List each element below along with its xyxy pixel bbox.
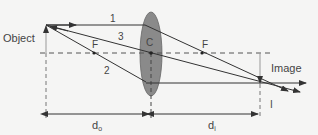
object-distance-label: do: [92, 119, 102, 132]
focal-point-right: [200, 51, 203, 54]
ray-3-label: 3: [118, 31, 124, 42]
ray-3-arrow: [56, 28, 68, 31]
focus-left-label: F: [92, 39, 98, 50]
image-distance-label: di: [208, 119, 216, 132]
lens-center-point: [149, 51, 153, 55]
thin-lens-ray-diagram: Object Image 1 3 2 C F F I do di: [0, 0, 318, 135]
focal-point-left: [92, 51, 95, 54]
ray-3: [46, 25, 300, 92]
object-label: Object: [3, 32, 35, 44]
image-marker-label: I: [270, 99, 273, 110]
focus-right-label: F: [202, 39, 208, 50]
center-label: C: [146, 37, 153, 48]
image-label: Image: [271, 62, 302, 74]
ray-1-refracted: [145, 25, 288, 91]
ray-1-label: 1: [110, 13, 116, 24]
ray-2-label: 2: [104, 65, 110, 76]
